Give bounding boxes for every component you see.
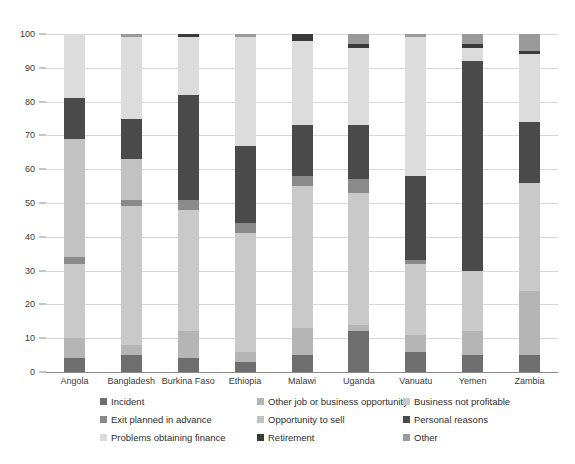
bar-segment[interactable] bbox=[519, 34, 540, 51]
stacked-bar[interactable] bbox=[292, 34, 313, 372]
bar-segment[interactable] bbox=[292, 355, 313, 372]
bar-segment[interactable] bbox=[64, 139, 85, 257]
bar-group[interactable] bbox=[462, 34, 483, 372]
legend-item[interactable]: Exit planned in advance bbox=[100, 414, 212, 425]
bar-segment[interactable] bbox=[121, 34, 142, 37]
legend-item[interactable]: Other bbox=[403, 432, 438, 443]
bar-segment[interactable] bbox=[348, 179, 369, 193]
bar-segment[interactable] bbox=[64, 98, 85, 139]
bar-segment[interactable] bbox=[462, 61, 483, 271]
bar-group[interactable] bbox=[292, 34, 313, 372]
bar-segment[interactable] bbox=[519, 291, 540, 355]
y-axis-tick-label: 20 bbox=[25, 300, 35, 309]
bar-segment[interactable] bbox=[519, 51, 540, 54]
bar-segment[interactable] bbox=[235, 223, 256, 233]
bar-segment[interactable] bbox=[178, 358, 199, 372]
y-axis-tick-mark bbox=[39, 169, 46, 170]
bar-segment[interactable] bbox=[348, 331, 369, 372]
stacked-bar[interactable] bbox=[405, 34, 426, 372]
bar-segment[interactable] bbox=[462, 355, 483, 372]
bar-segment[interactable] bbox=[519, 355, 540, 372]
stacked-bar[interactable] bbox=[64, 34, 85, 372]
bar-segment[interactable] bbox=[348, 44, 369, 47]
bar-segment[interactable] bbox=[405, 335, 426, 352]
stacked-bar[interactable] bbox=[178, 34, 199, 372]
bar-segment[interactable] bbox=[348, 193, 369, 325]
bar-segment[interactable] bbox=[519, 122, 540, 183]
bar-segment[interactable] bbox=[64, 358, 85, 372]
stacked-bar[interactable] bbox=[348, 34, 369, 372]
bar-segment[interactable] bbox=[235, 233, 256, 351]
bar-segment[interactable] bbox=[121, 355, 142, 372]
stacked-bar[interactable] bbox=[462, 34, 483, 372]
stacked-bar[interactable] bbox=[235, 34, 256, 372]
bar-segment[interactable] bbox=[462, 331, 483, 355]
bar-segment[interactable] bbox=[348, 325, 369, 332]
stacked-bar[interactable] bbox=[519, 34, 540, 372]
bar-segment[interactable] bbox=[292, 125, 313, 176]
bar-group[interactable] bbox=[519, 34, 540, 372]
bar-segment[interactable] bbox=[235, 37, 256, 145]
y-axis-tick-mark bbox=[39, 270, 46, 271]
bar-segment[interactable] bbox=[178, 95, 199, 200]
bar-group[interactable] bbox=[405, 34, 426, 372]
bar-segment[interactable] bbox=[178, 331, 199, 358]
bar-segment[interactable] bbox=[292, 328, 313, 355]
bar-segment[interactable] bbox=[292, 176, 313, 186]
bar-segment[interactable] bbox=[64, 257, 85, 264]
bar-segment[interactable] bbox=[405, 264, 426, 335]
legend-item[interactable]: Business not profitable bbox=[403, 396, 510, 407]
bar-segment[interactable] bbox=[121, 119, 142, 160]
bar-group[interactable] bbox=[178, 34, 199, 372]
legend-item[interactable]: Personal reasons bbox=[403, 414, 488, 425]
bar-segment[interactable] bbox=[292, 41, 313, 126]
bar-group[interactable] bbox=[121, 34, 142, 372]
bar-segment[interactable] bbox=[519, 183, 540, 291]
bar-segment[interactable] bbox=[235, 34, 256, 37]
bar-segment[interactable] bbox=[462, 44, 483, 47]
bar-segment[interactable] bbox=[462, 34, 483, 44]
bar-segment[interactable] bbox=[64, 34, 85, 98]
bar-segment[interactable] bbox=[348, 48, 369, 126]
bar-segment[interactable] bbox=[462, 48, 483, 62]
bar-segment[interactable] bbox=[235, 362, 256, 372]
legend-item[interactable]: Problems obtaining finance bbox=[100, 432, 226, 443]
bar-segment[interactable] bbox=[121, 206, 142, 345]
bar-segment[interactable] bbox=[178, 200, 199, 210]
bar-segment[interactable] bbox=[64, 338, 85, 358]
bar-group[interactable] bbox=[64, 34, 85, 372]
bar-segment[interactable] bbox=[405, 260, 426, 263]
bar-group[interactable] bbox=[348, 34, 369, 372]
bar-segment[interactable] bbox=[292, 186, 313, 328]
bar-segment[interactable] bbox=[462, 271, 483, 332]
bar-segment[interactable] bbox=[121, 37, 142, 118]
legend-item[interactable]: Retirement bbox=[257, 432, 314, 443]
bar-segment[interactable] bbox=[178, 210, 199, 332]
bar-segment[interactable] bbox=[178, 37, 199, 94]
bar-segment[interactable] bbox=[519, 54, 540, 122]
bar-segment[interactable] bbox=[121, 200, 142, 207]
legend-item[interactable]: Other job or business opportunity bbox=[257, 396, 408, 407]
bar-segment[interactable] bbox=[121, 345, 142, 355]
legend-label: Retirement bbox=[268, 432, 314, 443]
x-axis-tick-label: Ethiopia bbox=[229, 376, 262, 386]
bar-segment[interactable] bbox=[178, 34, 199, 37]
bar-segment[interactable] bbox=[348, 34, 369, 44]
bar-segment[interactable] bbox=[405, 34, 426, 37]
bar-segment[interactable] bbox=[235, 352, 256, 362]
bar-segment[interactable] bbox=[405, 176, 426, 261]
bar-segment[interactable] bbox=[121, 159, 142, 200]
bar-segment[interactable] bbox=[64, 264, 85, 338]
bar-group[interactable] bbox=[235, 34, 256, 372]
legend-swatch-icon bbox=[403, 434, 410, 441]
x-axis-tick-label: Burkina Faso bbox=[162, 376, 215, 386]
bar-segment[interactable] bbox=[292, 34, 313, 41]
bar-segment[interactable] bbox=[348, 125, 369, 179]
stacked-bar[interactable] bbox=[121, 34, 142, 372]
legend-item[interactable]: Incident bbox=[100, 396, 144, 407]
legend-item[interactable]: Opportunity to sell bbox=[257, 414, 345, 425]
bar-segment[interactable] bbox=[405, 352, 426, 372]
bar-segment[interactable] bbox=[235, 146, 256, 224]
y-axis-tick-mark bbox=[39, 135, 46, 136]
bar-segment[interactable] bbox=[405, 37, 426, 176]
